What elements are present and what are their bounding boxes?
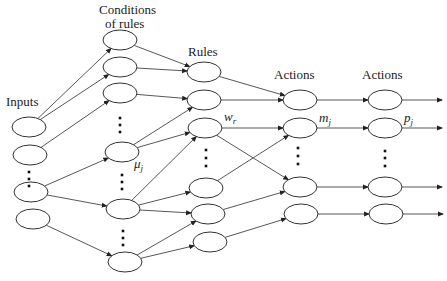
actions1-node-1	[283, 118, 317, 138]
ellipsis-dot-5	[119, 131, 122, 134]
edge-conditions-4-to-rules-4	[140, 210, 191, 213]
actions1-node-3	[284, 204, 318, 224]
edge-conditions-3-to-rules-2	[137, 132, 189, 147]
edge-conditions-2-to-rules-1	[137, 94, 187, 98]
actions2-node-2	[368, 177, 402, 197]
conditions-node-2	[103, 83, 137, 103]
edge-conditions-3-to-rules-1	[134, 107, 193, 144]
nodes-group	[12, 30, 403, 272]
conditions-node-5	[108, 252, 142, 272]
edge-inputs-1-to-conditions-2	[41, 101, 109, 148]
ellipsis-dot-8	[121, 188, 124, 191]
ellipsis-dot-17	[297, 163, 300, 166]
ellipsis-dot-3	[119, 117, 122, 120]
rules-node-2	[188, 118, 222, 138]
edge-rules-4-to-actions1-2	[223, 191, 285, 209]
ellipsis-dot-20	[384, 165, 387, 168]
actions2-node-0	[368, 90, 402, 110]
actions1-node-2	[283, 177, 317, 197]
actions-label-1: Actions	[274, 67, 314, 82]
actions2-node-3	[369, 204, 403, 224]
network-canvas: Inputs Conditions of rules Rules Actions…	[0, 0, 447, 281]
conditions-node-0	[103, 30, 137, 50]
edge-inputs-2-to-conditions-4	[47, 195, 107, 206]
edge-conditions-0-to-rules-0	[134, 45, 189, 66]
m-j-symbol: mj	[319, 110, 331, 127]
w-r-symbol: wr	[224, 109, 237, 126]
ellipsis-dot-7	[121, 181, 124, 184]
actions1-node-0	[283, 90, 317, 110]
edge-conditions-1-to-rules-0	[137, 68, 187, 71]
ellipsis-dot-9	[122, 230, 125, 233]
ellipsis-dot-15	[297, 147, 300, 150]
ellipsis-dot-13	[205, 157, 208, 160]
edge-inputs-3-to-conditions-5	[46, 225, 111, 256]
ellipsis-dot-4	[119, 124, 122, 127]
rules-node-1	[187, 90, 221, 110]
inputs-label: Inputs	[6, 94, 39, 109]
ellipsis-dot-18	[384, 150, 387, 153]
inputs-node-2	[14, 182, 48, 202]
inputs-node-0	[12, 117, 46, 137]
edge-inputs-0-to-conditions-1	[40, 74, 108, 119]
ellipsis-dot-12	[205, 149, 208, 152]
ellipsis-dot-11	[122, 244, 125, 247]
conditions-label-line1: Conditions	[99, 2, 156, 17]
mu-j-symbol: μj	[133, 156, 144, 173]
ellipsis-dot-16	[297, 155, 300, 158]
edge-inputs-0-to-conditions-0	[38, 49, 111, 119]
rules-label: Rules	[188, 44, 218, 59]
edge-rules-5-to-actions1-3	[225, 219, 286, 238]
ellipsis-dot-6	[121, 174, 124, 177]
actions2-node-1	[368, 118, 402, 138]
fuzzy-rule-network-diagram: Inputs Conditions of rules Rules Actions…	[0, 0, 447, 281]
edge-conditions-5-to-rules-4	[137, 221, 196, 255]
rules-node-5	[193, 232, 227, 252]
inputs-node-1	[13, 145, 47, 165]
rules-node-4	[191, 204, 225, 224]
conditions-label-line2: of rules	[105, 16, 144, 31]
edge-conditions-5-to-rules-5	[141, 246, 194, 259]
rules-node-0	[187, 62, 221, 82]
rules-node-3	[189, 178, 223, 198]
ellipsis-dot-14	[205, 165, 208, 168]
ellipsis-dot-2	[28, 185, 31, 188]
inputs-node-3	[16, 209, 50, 229]
actions-label-2: Actions	[362, 67, 402, 82]
ellipsis-dot-0	[28, 171, 31, 174]
p-j-symbol: pj	[403, 110, 414, 127]
conditions-node-4	[106, 199, 140, 219]
ellipsis-dot-19	[384, 157, 387, 160]
ellipsis-dot-1	[28, 178, 31, 181]
edge-conditions-4-to-rules-3	[139, 192, 191, 205]
ellipsis-dot-10	[122, 237, 125, 240]
edge-inputs-2-to-conditions-3	[45, 158, 109, 186]
conditions-node-1	[103, 57, 137, 77]
